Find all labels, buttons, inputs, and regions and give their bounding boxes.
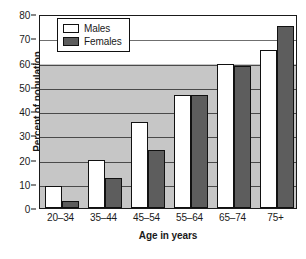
bar-females-45-54 <box>148 150 165 208</box>
y-axis-ticks: 01020304050607080 <box>0 0 36 259</box>
bar-males-20-34 <box>45 186 62 208</box>
y-tick-mark <box>31 87 36 88</box>
y-tick-label: 20 <box>0 155 30 166</box>
y-tick-mark <box>31 63 36 64</box>
bar-males-65-74 <box>217 64 234 208</box>
bar-chart-figure: Percent of population 01020304050607080 … <box>0 0 306 259</box>
bar-females-75+ <box>277 26 294 208</box>
y-tick-label: 40 <box>0 107 30 118</box>
bar-females-65-74 <box>234 66 251 208</box>
y-tick-mark <box>31 160 36 161</box>
legend-label-males: Males <box>84 23 110 34</box>
y-tick-label: 80 <box>0 10 30 21</box>
bar-males-75+ <box>260 50 277 208</box>
x-tick-label: 55–64 <box>176 212 203 223</box>
y-tick-label: 50 <box>0 82 30 93</box>
x-tick-label: 35–44 <box>90 212 117 223</box>
legend: Males Females <box>57 18 130 52</box>
x-axis-ticks: 20–3435–4445–5455–6465–7475+ <box>39 212 297 228</box>
y-tick-label: 0 <box>0 204 30 215</box>
y-tick-label: 10 <box>0 179 30 190</box>
bar-females-35-44 <box>105 178 122 208</box>
bar-females-20-34 <box>62 201 79 208</box>
y-tick-mark <box>31 209 36 210</box>
y-tick-mark <box>31 136 36 137</box>
x-tick-label: 65–74 <box>219 212 246 223</box>
bar-males-45-54 <box>131 122 148 208</box>
bar-females-55-64 <box>191 95 208 208</box>
y-tick-label: 60 <box>0 58 30 69</box>
legend-item-females: Females <box>63 35 122 48</box>
legend-swatch-females-icon <box>63 37 79 46</box>
legend-label-females: Females <box>84 36 122 47</box>
y-tick-label: 70 <box>0 34 30 45</box>
x-axis-label: Age in years <box>39 230 297 241</box>
y-tick-label: 30 <box>0 131 30 142</box>
y-tick-mark <box>31 15 36 16</box>
bar-males-55-64 <box>174 95 191 208</box>
bar-group <box>217 16 251 208</box>
bar-group <box>131 16 165 208</box>
legend-item-males: Males <box>63 22 122 35</box>
y-tick-mark <box>31 112 36 113</box>
legend-swatch-males-icon <box>63 24 79 33</box>
bar-males-35-44 <box>88 160 105 209</box>
x-tick-label: 45–54 <box>133 212 160 223</box>
y-tick-mark <box>31 39 36 40</box>
bar-group <box>174 16 208 208</box>
x-tick-label: 20–34 <box>47 212 74 223</box>
x-tick-label: 75+ <box>267 212 283 223</box>
y-tick-mark <box>31 184 36 185</box>
bar-group <box>260 16 294 208</box>
